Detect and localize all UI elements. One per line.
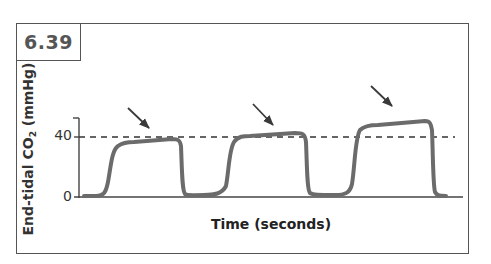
y-axis bbox=[73, 118, 79, 198]
arrow-breath-1 bbox=[128, 108, 149, 128]
x-axis-label: Time (seconds) bbox=[211, 216, 331, 232]
capnogram-trace bbox=[84, 121, 446, 196]
arrow-breath-3 bbox=[371, 86, 392, 106]
arrow-breath-2 bbox=[253, 104, 273, 125]
